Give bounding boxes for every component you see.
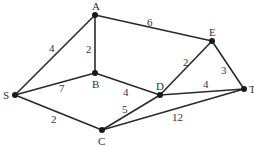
edge-weight-a-b: 2 — [86, 43, 92, 55]
edge-weight-a-e: 6 — [147, 16, 153, 28]
edge-weight-e-d: 2 — [183, 56, 189, 68]
edge-weight-c-d: 5 — [122, 103, 128, 115]
node-label-a: A — [92, 0, 100, 12]
edge-weight-s-c: 2 — [51, 113, 57, 125]
node-e — [209, 38, 215, 44]
edge-weight-s-b: 7 — [59, 82, 65, 94]
edge-weight-c-t: 12 — [172, 111, 183, 123]
edge-e-t — [212, 41, 244, 89]
edge-c-d — [102, 95, 160, 130]
node-d — [157, 92, 163, 98]
node-c — [99, 127, 105, 133]
edge-a-e — [95, 15, 212, 41]
edge-s-c — [15, 95, 102, 130]
edge-weight-s-a: 4 — [49, 42, 55, 54]
edge-weight-b-d: 4 — [123, 86, 129, 98]
edge-weight-d-t: 4 — [203, 78, 209, 90]
node-a — [92, 12, 98, 18]
node-label-d: D — [156, 80, 164, 92]
weighted-graph: 426724234512 AESBDTC — [0, 0, 254, 146]
node-t — [241, 86, 247, 92]
node-b — [92, 70, 98, 76]
node-label-e: E — [209, 26, 216, 38]
node-label-b: B — [92, 78, 99, 90]
node-label-c: C — [98, 135, 105, 146]
node-s — [12, 92, 18, 98]
node-label-t: T — [249, 83, 254, 95]
edge-weight-e-t: 3 — [221, 64, 227, 76]
edge-s-a — [15, 15, 95, 95]
node-label-s: S — [3, 89, 9, 101]
